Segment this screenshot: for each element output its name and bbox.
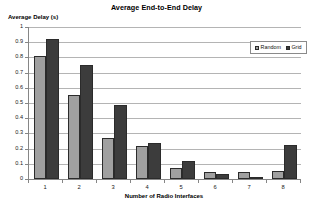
y-tick-label: 0.4 [0, 115, 23, 121]
bar-grid-1 [46, 39, 59, 179]
x-tick-mark [130, 180, 131, 183]
x-tick-mark [300, 180, 301, 183]
bar-group [170, 27, 195, 179]
y-tick-label: 0.3 [0, 130, 23, 136]
y-tick-mark [25, 27, 28, 28]
y-tick-label: 0.7 [0, 70, 23, 76]
y-tick-label: 0.2 [0, 146, 23, 152]
bar-grid-8 [284, 145, 297, 179]
y-tick-label: 0 [0, 176, 23, 182]
y-axis-title: Average Delay (s) [8, 14, 58, 20]
bar-random-7 [238, 172, 251, 179]
bar-random-2 [68, 95, 81, 179]
bar-random-1 [34, 56, 47, 179]
x-tick-label: 5 [171, 184, 191, 190]
bar-grid-5 [182, 161, 195, 179]
y-tick-mark [25, 149, 28, 150]
y-tick-mark [25, 118, 28, 119]
y-tick-label: 0.5 [0, 100, 23, 106]
legend-swatch-icon [286, 46, 290, 50]
y-tick-mark [25, 57, 28, 58]
legend-label: Grid [291, 45, 301, 50]
y-tick-mark [25, 73, 28, 74]
legend-entry-random[interactable]: Random [255, 45, 281, 50]
x-tick-mark [96, 180, 97, 183]
x-tick-mark [232, 180, 233, 183]
y-tick-mark [25, 103, 28, 104]
y-tick-mark [25, 164, 28, 165]
bar-grid-2 [80, 65, 93, 179]
x-tick-label: 7 [239, 184, 259, 190]
x-tick-mark [28, 180, 29, 183]
chart-legend: RandomGrid [250, 41, 307, 54]
y-tick-mark [25, 88, 28, 89]
bar-group [34, 27, 59, 179]
bar-grid-7 [250, 177, 263, 179]
bar-random-8 [272, 171, 285, 179]
x-tick-label: 6 [205, 184, 225, 190]
bar-random-3 [102, 138, 115, 179]
x-tick-mark [198, 180, 199, 183]
bar-grid-4 [148, 143, 161, 179]
y-tick-mark [25, 133, 28, 134]
bar-group [102, 27, 127, 179]
legend-label: Random [261, 45, 281, 50]
x-tick-label: 1 [35, 184, 55, 190]
bar-grid-6 [216, 174, 229, 179]
x-tick-label: 3 [103, 184, 123, 190]
bar-random-5 [170, 168, 183, 179]
bar-random-4 [136, 146, 149, 179]
bar-group [68, 27, 93, 179]
y-tick-label: 1 [0, 24, 23, 30]
x-tick-mark [62, 180, 63, 183]
y-tick-mark [25, 42, 28, 43]
y-tick-label: 0.1 [0, 161, 23, 167]
bar-group [136, 27, 161, 179]
y-tick-label: 0.9 [0, 39, 23, 45]
chart-container: Average End-to-End Delay Average Delay (… [0, 0, 313, 209]
chart-title: Average End-to-End Delay [0, 3, 313, 12]
x-axis-title: Number of Radio Interfaces [28, 193, 300, 199]
x-tick-mark [266, 180, 267, 183]
x-tick-label: 2 [69, 184, 89, 190]
bar-group [204, 27, 229, 179]
y-tick-label: 0.8 [0, 54, 23, 60]
x-tick-label: 4 [137, 184, 157, 190]
bar-random-6 [204, 172, 217, 179]
bar-grid-3 [114, 105, 127, 179]
x-tick-mark [164, 180, 165, 183]
legend-swatch-icon [255, 46, 259, 50]
y-tick-label: 0.6 [0, 85, 23, 91]
x-tick-label: 8 [273, 184, 293, 190]
legend-entry-grid[interactable]: Grid [286, 45, 302, 50]
